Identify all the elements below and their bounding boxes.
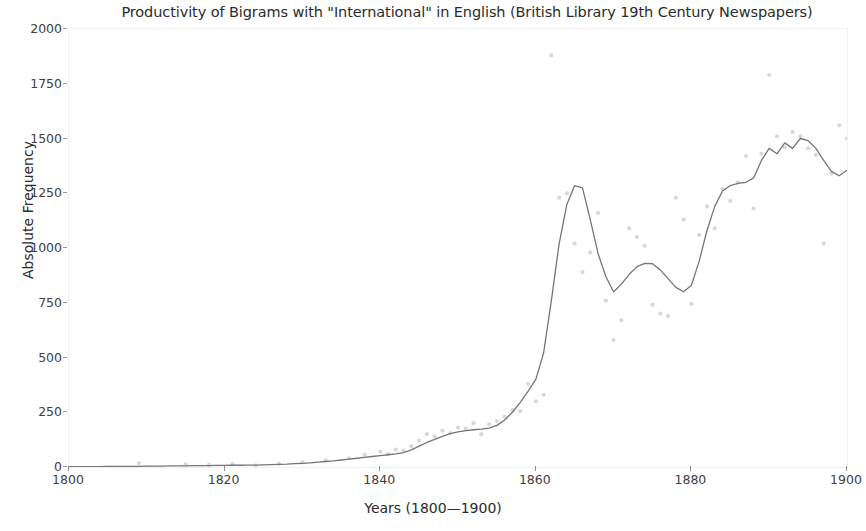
x-tickmark: [68, 466, 69, 471]
scatter-point: [775, 134, 779, 138]
y-tickmark: [63, 302, 67, 303]
y-tickmark: [63, 138, 67, 139]
y-tickmark: [63, 466, 67, 467]
x-tick-label: 1840: [339, 472, 419, 487]
scatter-point: [759, 152, 763, 156]
scatter-point: [814, 153, 818, 157]
x-tick-label: 1820: [184, 472, 264, 487]
scatter-point: [697, 233, 701, 237]
y-tickmark: [63, 28, 67, 29]
scatter-point: [440, 429, 444, 433]
scatter-point: [612, 338, 616, 342]
y-tickmark: [63, 192, 67, 193]
scatter-point: [674, 196, 678, 200]
scatter-point: [394, 447, 398, 451]
plot-area: [68, 28, 848, 468]
scatter-point: [767, 73, 771, 77]
x-axis-label: Years (1800—1900): [0, 500, 866, 516]
scatter-point: [378, 450, 382, 454]
scatter-point: [682, 217, 686, 221]
scatter-point: [526, 382, 530, 386]
x-tickmark: [690, 466, 691, 471]
x-tick-label: 1860: [495, 472, 575, 487]
scatter-point: [790, 130, 794, 134]
scatter-point: [666, 314, 670, 318]
x-tickmark: [846, 466, 847, 471]
x-axis-tick-labels: 180018201840186018801900: [68, 472, 846, 492]
scatter-point: [409, 444, 413, 448]
scatter-point: [713, 226, 717, 230]
scatter-point: [471, 421, 475, 425]
y-axis-label: Absolute Frequency: [20, 0, 36, 420]
scatter-point: [689, 302, 693, 306]
scatter-point: [541, 393, 545, 397]
scatter-point: [487, 422, 491, 426]
scatter-point: [744, 154, 748, 158]
scatter-point: [806, 146, 810, 150]
x-tick-label: 1800: [28, 472, 108, 487]
x-tick-label: 1880: [650, 472, 730, 487]
trend-line: [69, 139, 847, 467]
scatter-point: [479, 432, 483, 436]
x-tickmark: [535, 466, 536, 471]
scatter-point: [650, 303, 654, 307]
chart-canvas: [69, 29, 847, 467]
scatter-point: [728, 199, 732, 203]
scatter-point: [837, 123, 841, 127]
scatter-point: [433, 434, 437, 438]
y-tickmark: [63, 247, 67, 248]
scatter-point: [425, 432, 429, 436]
scatter-point: [565, 191, 569, 195]
scatter-point: [518, 409, 522, 413]
x-tick-label: 1900: [806, 472, 866, 487]
scatter-point: [588, 250, 592, 254]
scatter-point: [604, 298, 608, 302]
scatter-point: [363, 453, 367, 457]
scatter-point: [752, 206, 756, 210]
scatter-points-layer: [137, 53, 847, 467]
x-tickmark: [379, 466, 380, 471]
scatter-point: [573, 242, 577, 246]
scatter-point: [658, 312, 662, 316]
scatter-point: [798, 134, 802, 138]
scatter-point: [822, 242, 826, 246]
scatter-point: [495, 419, 499, 423]
scatter-point: [627, 226, 631, 230]
scatter-point: [643, 244, 647, 248]
scatter-point: [845, 136, 847, 140]
scatter-point: [557, 196, 561, 200]
scatter-point: [705, 204, 709, 208]
scatter-point: [596, 211, 600, 215]
scatter-point: [417, 439, 421, 443]
scatter-point: [580, 270, 584, 274]
chart-title: Productivity of Bigrams with "Internatio…: [68, 2, 866, 22]
scatter-point: [619, 318, 623, 322]
scatter-point: [534, 399, 538, 403]
y-tickmark: [63, 357, 67, 358]
x-tickmark: [224, 466, 225, 471]
scatter-point: [137, 461, 141, 465]
y-tickmark: [63, 411, 67, 412]
scatter-point: [549, 53, 553, 57]
scatter-point: [635, 235, 639, 239]
y-tickmark: [63, 83, 67, 84]
chart-figure: Productivity of Bigrams with "Internatio…: [0, 0, 866, 531]
scatter-point: [456, 425, 460, 429]
